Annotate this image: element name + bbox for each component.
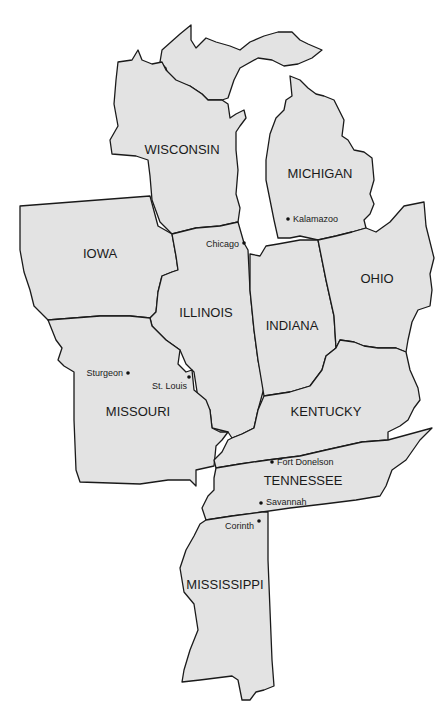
city-label-fort-donelson: Fort Donelson: [277, 457, 334, 467]
city-label-savannah: Savannah: [266, 497, 307, 507]
state-label-illinois: ILLINOIS: [179, 305, 233, 320]
state-label-mississippi: MISSISSIPPI: [186, 577, 263, 592]
state-shape-mississippi: [180, 512, 274, 700]
city-label-chicago: Chicago: [206, 239, 239, 249]
city-label-kalamazoo: Kalamazoo: [293, 214, 338, 224]
city-label-st-louis: St. Louis: [152, 381, 188, 391]
state-label-wisconsin: WISCONSIN: [144, 142, 219, 157]
city-label-corinth: Corinth: [225, 521, 254, 531]
state-shapes: [20, 25, 434, 700]
state-label-iowa: IOWA: [83, 246, 118, 261]
city-dot-icon-kalamazoo: [286, 217, 290, 221]
state-label-kentucky: KENTUCKY: [291, 404, 362, 419]
city-dot-icon-sturgeon: [126, 371, 130, 375]
state-label-indiana: INDIANA: [266, 318, 319, 333]
state-label-tennessee: TENNESSEE: [264, 473, 343, 488]
city-dot-icon-chicago: [242, 241, 246, 245]
state-label-ohio: OHIO: [360, 271, 393, 286]
midwest-map: WISCONSIN MICHIGAN IOWA ILLINOIS INDIANA…: [0, 0, 448, 719]
city-dot-icon-fort-donelson: [270, 460, 274, 464]
state-label-missouri: MISSOURI: [106, 404, 170, 419]
city-dot-icon-corinth: [257, 519, 261, 523]
city-label-sturgeon: Sturgeon: [86, 368, 123, 378]
city-dot-icon-st-louis: [187, 375, 191, 379]
state-label-michigan: MICHIGAN: [288, 166, 353, 181]
city-dot-icon-savannah: [259, 501, 263, 505]
